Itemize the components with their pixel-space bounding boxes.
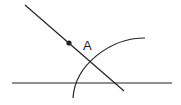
point-dot	[66, 40, 71, 45]
point-label-a: A	[83, 38, 92, 53]
diagonal-line	[25, 5, 124, 91]
geometry-diagram: A	[0, 0, 181, 105]
